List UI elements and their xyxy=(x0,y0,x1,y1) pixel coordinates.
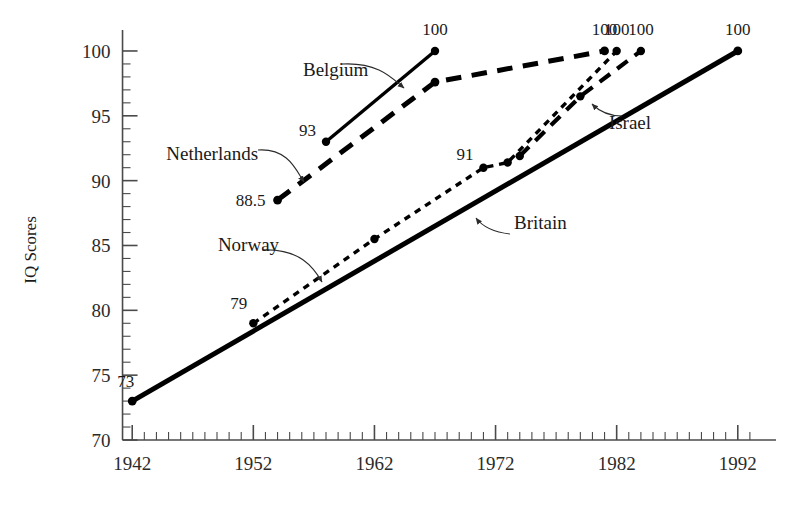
y-tick-label: 100 xyxy=(82,41,111,62)
data-point-netherlands xyxy=(600,47,609,56)
y-tick-label: 85 xyxy=(92,235,111,256)
data-point-norway xyxy=(612,47,620,55)
point-value-label: 79 xyxy=(230,294,247,313)
x-tick-label: 1982 xyxy=(598,453,636,474)
point-value-label: 100 xyxy=(422,20,448,39)
data-point-norway xyxy=(370,235,378,243)
data-point-netherlands xyxy=(273,196,282,205)
iq-scores-line-chart: 707580859095100194219521962197219821992 … xyxy=(0,0,785,505)
data-point-israel xyxy=(516,152,524,160)
data-point-israel xyxy=(637,47,645,55)
series-annotation-netherlands: Netherlands xyxy=(166,143,258,164)
point-value-label: 93 xyxy=(299,121,316,140)
y-tick-label: 90 xyxy=(92,171,111,192)
data-point-netherlands xyxy=(431,78,440,87)
y-tick-label: 70 xyxy=(92,430,111,451)
x-tick-label: 1972 xyxy=(477,453,515,474)
series-annotation-israel: Israel xyxy=(609,112,651,133)
x-tick-label: 1942 xyxy=(113,453,151,474)
series-annotation-belgium: Belgium xyxy=(303,59,369,80)
series-annotation-norway: Norway xyxy=(218,234,280,255)
y-axis-title: IQ Scores xyxy=(21,216,40,284)
chart-root: 707580859095100194219521962197219821992 … xyxy=(0,0,785,505)
data-point-israel xyxy=(576,92,584,100)
series-annotation-britain: Britain xyxy=(514,212,567,233)
data-point-norway xyxy=(479,163,487,171)
x-tick-label: 1992 xyxy=(719,453,757,474)
data-point-norway xyxy=(249,319,257,327)
data-point-belgium xyxy=(431,47,439,55)
point-value-label: 100 xyxy=(628,20,654,39)
data-point-belgium xyxy=(322,138,330,146)
x-tick-label: 1962 xyxy=(355,453,393,474)
data-point-norway xyxy=(503,158,511,166)
x-tick-label: 1952 xyxy=(234,453,272,474)
point-value-label: 88.5 xyxy=(236,191,266,210)
point-value-label: 91 xyxy=(456,145,473,164)
point-value-label: 100 xyxy=(725,20,751,39)
y-tick-label: 80 xyxy=(92,300,111,321)
point-value-label: 100 xyxy=(592,20,618,39)
y-tick-label: 75 xyxy=(92,365,111,386)
point-value-label: 73 xyxy=(117,372,134,391)
data-point-britain xyxy=(128,397,137,406)
data-point-britain xyxy=(733,47,742,56)
y-tick-label: 95 xyxy=(92,106,111,127)
